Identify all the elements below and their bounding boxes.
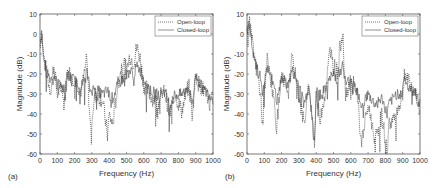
x-tick-label: 0: [245, 157, 249, 164]
x-tick-label: 200: [69, 157, 81, 164]
y-tick-label: -60: [234, 151, 244, 158]
y-tick-label: 10: [236, 11, 244, 18]
legend: Open-loopClosed-loop: [155, 16, 211, 36]
y-tick-label: 10: [29, 11, 37, 18]
x-tick-label: 400: [310, 157, 322, 164]
y-tick-label: -40: [234, 111, 244, 118]
y-tick-label: 0: [240, 31, 244, 38]
y-tick-label: -20: [27, 71, 37, 78]
y-tick-label: -30: [234, 91, 244, 98]
x-tick-label: 400: [103, 157, 115, 164]
x-tick-label: 800: [380, 157, 392, 164]
x-tick-label: 100: [51, 157, 63, 164]
x-tick-label: 600: [138, 157, 150, 164]
x-tick-label: 900: [190, 157, 202, 164]
x-tick-label: 900: [397, 157, 409, 164]
x-axis-label: Frequency (Hz): [99, 169, 154, 178]
x-tick-label: 500: [328, 157, 340, 164]
x-tick-label: 700: [155, 157, 167, 164]
x-tick-label: 800: [173, 157, 185, 164]
open-loop-trace: [247, 16, 420, 154]
x-tick-label: 100: [258, 157, 270, 164]
y-tick-label: -30: [27, 91, 37, 98]
x-tick-label: 300: [293, 157, 305, 164]
x-tick-label: 1000: [412, 157, 428, 164]
legend-open-loop-label: Open-loop: [177, 19, 206, 25]
x-tick-label: 200: [276, 157, 288, 164]
x-tick-label: 700: [362, 157, 374, 164]
y-axis-label: Magnitude (dB): [222, 56, 231, 111]
panel-label: (a): [8, 172, 18, 181]
closed-loop-trace: [247, 21, 420, 141]
y-tick-label: -20: [234, 71, 244, 78]
y-tick-label: -10: [27, 51, 37, 58]
y-tick-label: -10: [234, 51, 244, 58]
x-tick-label: 1000: [205, 157, 221, 164]
y-tick-label: -50: [234, 131, 244, 138]
x-tick-label: 600: [345, 157, 357, 164]
panel-label: (b): [225, 172, 235, 181]
y-tick-label: -60: [27, 151, 37, 158]
y-tick-label: -40: [27, 111, 37, 118]
x-tick-label: 0: [38, 157, 42, 164]
y-tick-label: 0: [33, 31, 37, 38]
y-tick-label: -50: [27, 131, 37, 138]
legend-open-loop-label: Open-loop: [384, 19, 413, 25]
legend: Open-loopClosed-loop: [362, 16, 418, 36]
y-axis-label: Magnitude (dB): [15, 56, 24, 111]
x-tick-label: 500: [121, 157, 133, 164]
legend-closed-loop-label: Closed-loop: [384, 27, 417, 33]
x-tick-label: 300: [86, 157, 98, 164]
x-axis-label: Frequency (Hz): [306, 169, 361, 178]
chart-panel-a: 01002003004005006007008009001000100-10-2…: [8, 11, 221, 182]
legend-closed-loop-label: Closed-loop: [177, 27, 210, 33]
chart-panel-b: 01002003004005006007008009001000100-10-2…: [222, 11, 428, 182]
closed-loop-trace: [40, 31, 213, 132]
figure: 01002003004005006007008009001000100-10-2…: [0, 0, 442, 188]
